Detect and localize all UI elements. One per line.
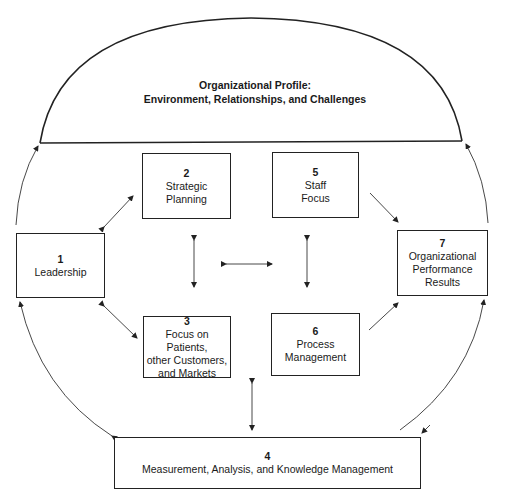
box-label: other Customers, (147, 354, 228, 367)
box-staff-focus: 5 Staff Focus (272, 152, 359, 218)
box-customers: 3 Focus on Patients, other Customers, an… (143, 316, 231, 378)
arrow-leadership-customers (104, 306, 137, 338)
box-measurement: 4 Measurement, Analysis, and Knowledge M… (114, 437, 421, 489)
box-strategic-planning: 2 Strategic Planning (142, 153, 231, 219)
arrow-to-measurement-right (422, 425, 430, 433)
box-number: 1 (58, 253, 64, 266)
arrow-process-results (369, 303, 398, 330)
box-number: 3 (184, 315, 190, 328)
profile-line-1: Organizational Profile: (100, 78, 410, 92)
box-label: Results (425, 276, 460, 289)
box-label: Planning (166, 193, 207, 206)
box-number: 4 (265, 450, 271, 463)
box-process-management: 6 Process Management (271, 313, 360, 376)
box-label: Performance (412, 263, 472, 276)
box-label: Strategic (166, 180, 207, 193)
profile-line-2: Environment, Relationships, and Challeng… (100, 92, 410, 106)
arc-measurement-results (400, 300, 484, 430)
arrow-leadership-strategic (104, 196, 133, 227)
box-number: 2 (184, 167, 190, 180)
organizational-profile-label: Organizational Profile: Environment, Rel… (100, 78, 410, 106)
box-label: Process (297, 338, 335, 351)
arc-results-to-profile (466, 144, 488, 223)
arrow-staff-results (370, 193, 398, 222)
box-label: Organizational (409, 250, 477, 263)
profile-divider (40, 141, 462, 143)
box-leadership: 1 Leadership (16, 233, 105, 298)
box-number: 6 (313, 325, 319, 338)
box-label: Focus on Patients, (144, 328, 230, 354)
box-label: Staff (305, 179, 326, 192)
box-label: Management (285, 351, 346, 364)
box-performance-results: 7 Organizational Performance Results (397, 230, 488, 296)
box-label: Measurement, Analysis, and Knowledge Man… (142, 463, 393, 476)
arc-leadership-measurement (20, 302, 112, 436)
box-number: 7 (440, 237, 446, 250)
box-number: 5 (313, 166, 319, 179)
box-label: and Markets (158, 367, 216, 380)
box-label: Leadership (35, 266, 87, 279)
arc-leadership-to-profile (16, 146, 38, 225)
box-label: Focus (301, 192, 330, 205)
